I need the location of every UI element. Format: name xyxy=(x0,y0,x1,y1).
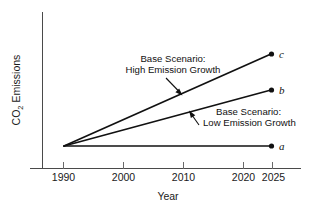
x-tick-labels: 1990 2000 2010 2020 2025 xyxy=(52,171,286,183)
x-tick-label-1990: 1990 xyxy=(52,171,76,183)
co2-emissions-scenario-chart: 1990 2000 2010 2020 2025 Year CO2 Emissi… xyxy=(0,0,322,212)
chart-canvas: 1990 2000 2010 2020 2025 Year CO2 Emissi… xyxy=(0,0,322,212)
series-label-b: b xyxy=(279,84,285,96)
x-tick-label-2025: 2025 xyxy=(262,171,286,183)
series-label-c: c xyxy=(279,48,284,60)
y-axis-title-pre: CO xyxy=(10,110,22,126)
series-marker-b xyxy=(269,87,274,92)
series-marker-c xyxy=(269,51,274,56)
annotation-high-growth-line-2: High Emission Growth xyxy=(126,64,221,75)
series-markers xyxy=(269,51,274,148)
x-tick-label-2000: 2000 xyxy=(112,171,136,183)
y-axis-title: CO2 Emissions xyxy=(10,55,25,126)
annotation-high-growth: Base Scenario: High Emission Growth xyxy=(126,53,221,96)
annotation-low-growth: Base Scenario: Low Emission Growth xyxy=(189,106,296,128)
y-axis-title-group: CO2 Emissions xyxy=(10,55,25,126)
x-axis-title: Year xyxy=(157,190,179,202)
annotation-low-growth-line-2: Low Emission Growth xyxy=(203,117,296,128)
y-axis-title-post: Emissions xyxy=(10,55,22,106)
series-marker-a xyxy=(269,143,274,148)
annotation-high-growth-line-1: Base Scenario: xyxy=(140,53,205,64)
x-tick-marks xyxy=(64,162,273,169)
x-tick-label-2020: 2020 xyxy=(232,171,256,183)
series-label-a: a xyxy=(279,140,285,152)
series-labels: c b a xyxy=(279,48,285,152)
annotation-low-growth-line-1: Base Scenario: xyxy=(216,106,281,117)
x-tick-label-2010: 2010 xyxy=(172,171,196,183)
